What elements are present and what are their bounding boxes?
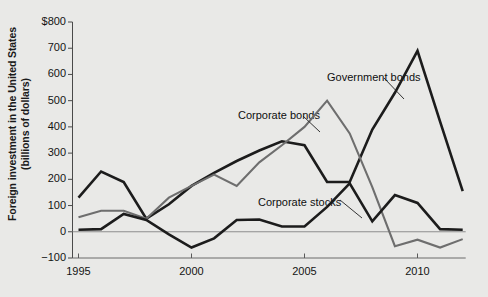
leader-line (340, 200, 362, 218)
series-line-government-bonds (79, 51, 463, 219)
plot-area (0, 0, 488, 297)
series-line-corporate-bonds (79, 101, 463, 248)
chart-container: Foreign investment in the United States … (0, 0, 488, 297)
